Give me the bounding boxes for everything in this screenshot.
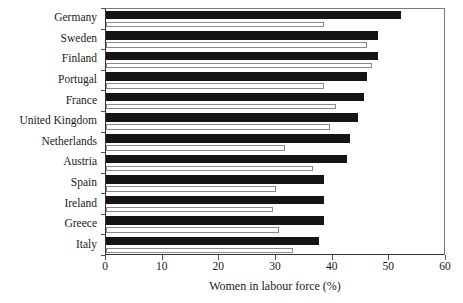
bar-hollow bbox=[106, 42, 367, 48]
bar-hollow bbox=[106, 166, 313, 172]
y-axis-label-united-kingdom: United Kingdom bbox=[19, 115, 97, 127]
bar-group bbox=[106, 194, 444, 215]
y-axis-tick bbox=[101, 234, 105, 235]
bar-solid bbox=[106, 93, 364, 102]
bar-solid bbox=[106, 52, 378, 61]
bar-group bbox=[106, 91, 444, 112]
bar-solid bbox=[106, 134, 350, 143]
bar-group bbox=[106, 235, 444, 256]
x-axis-tick-label: 60 bbox=[439, 261, 451, 273]
bar-group bbox=[106, 50, 444, 71]
y-axis-label-germany: Germany bbox=[54, 12, 97, 24]
bar-hollow bbox=[106, 22, 324, 28]
bar-group bbox=[106, 9, 444, 30]
y-axis-label-ireland: Ireland bbox=[64, 198, 97, 210]
bar-hollow bbox=[106, 63, 372, 69]
y-axis-label-sweden: Sweden bbox=[61, 33, 97, 45]
bar-group bbox=[106, 30, 444, 51]
bar-solid bbox=[106, 196, 324, 205]
bar-group bbox=[106, 174, 444, 195]
bar-group bbox=[106, 133, 444, 154]
y-axis-tick bbox=[101, 132, 105, 133]
y-axis-label-greece: Greece bbox=[64, 218, 97, 230]
bar-hollow bbox=[106, 207, 273, 213]
y-axis-tick bbox=[101, 49, 105, 50]
bar-group bbox=[106, 112, 444, 133]
y-axis-tick bbox=[101, 152, 105, 153]
bar-group bbox=[106, 215, 444, 236]
bar-solid bbox=[106, 175, 324, 184]
x-axis-title: Women in labour force (%) bbox=[105, 279, 445, 294]
bar-hollow bbox=[106, 145, 285, 151]
bar-hollow bbox=[106, 124, 330, 130]
y-axis-tick bbox=[101, 90, 105, 91]
x-axis-tick-label: 20 bbox=[213, 261, 225, 273]
y-axis-label-finland: Finland bbox=[62, 53, 97, 65]
y-axis-label-austria: Austria bbox=[63, 156, 97, 168]
y-axis-tick bbox=[101, 173, 105, 174]
bar-group bbox=[106, 71, 444, 92]
bar-hollow bbox=[106, 248, 293, 254]
bar-solid bbox=[106, 113, 358, 122]
x-axis: Women in labour force (%) 0102030405060 bbox=[105, 255, 445, 301]
y-axis-label-spain: Spain bbox=[71, 177, 97, 189]
y-axis-label-netherlands: Netherlands bbox=[41, 136, 97, 148]
bar-solid bbox=[106, 216, 324, 225]
y-axis-tick bbox=[101, 29, 105, 30]
plot-area bbox=[105, 8, 445, 255]
x-axis-tick-label: 40 bbox=[326, 261, 338, 273]
x-axis-tick-label: 0 bbox=[102, 261, 108, 273]
bar-hollow bbox=[106, 104, 336, 110]
y-axis-tick bbox=[101, 193, 105, 194]
y-axis-label-france: France bbox=[66, 95, 97, 107]
bar-hollow bbox=[106, 186, 276, 192]
y-axis-tick bbox=[101, 70, 105, 71]
y-axis-category-labels: GermanySwedenFinlandPortugalFranceUnited… bbox=[0, 8, 101, 255]
bar-solid bbox=[106, 72, 367, 81]
bar-solid bbox=[106, 31, 378, 40]
bar-solid bbox=[106, 237, 319, 246]
bar-solid bbox=[106, 11, 401, 20]
bar-hollow bbox=[106, 227, 279, 233]
y-axis-tick bbox=[101, 111, 105, 112]
bar-solid bbox=[106, 155, 347, 164]
y-axis-label-portugal: Portugal bbox=[58, 74, 97, 86]
bar-hollow bbox=[106, 83, 324, 89]
x-axis-tick-label: 10 bbox=[156, 261, 168, 273]
x-axis-tick-label: 30 bbox=[269, 261, 281, 273]
y-axis-tick bbox=[101, 214, 105, 215]
y-axis-tick bbox=[101, 8, 105, 9]
y-axis-label-italy: Italy bbox=[76, 239, 97, 251]
bar-group bbox=[106, 153, 444, 174]
x-axis-tick-label: 50 bbox=[383, 261, 395, 273]
bar-chart: GermanySwedenFinlandPortugalFranceUnited… bbox=[0, 0, 463, 303]
